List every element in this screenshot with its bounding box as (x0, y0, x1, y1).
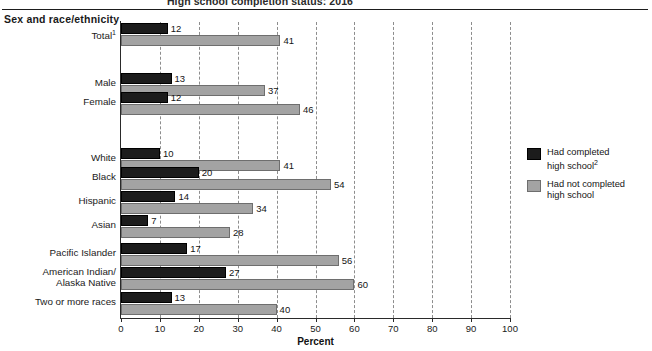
x-tick-label: 10 (155, 323, 166, 334)
chart-title: High school completion status: 2016 (0, 0, 520, 7)
category-label-line: Male (95, 78, 116, 89)
category-label: Pacific Islander (50, 248, 116, 259)
category-label-line: Hispanic (78, 196, 116, 207)
x-tick (121, 318, 122, 322)
category-label: Male (95, 78, 116, 89)
bar-completed (121, 167, 199, 178)
bar-value-label: 14 (178, 191, 189, 202)
x-tick-label: 60 (349, 323, 360, 334)
bar-completed (121, 292, 172, 303)
bar-value-label: 28 (233, 227, 244, 238)
legend-label: Had not completedhigh school (547, 179, 625, 200)
bar-value-label: 17 (190, 243, 201, 254)
bar-value-label: 40 (280, 304, 291, 315)
bar-value-label: 37 (268, 85, 279, 96)
bar-notcompleted (121, 35, 280, 46)
bar-completed (121, 191, 175, 202)
bar-completed (121, 92, 168, 103)
title-divider (2, 9, 648, 10)
category-label-line: Female (83, 97, 116, 108)
legend-swatch-notcompleted (527, 180, 541, 192)
group-heading: Sex and race/ethnicity (4, 13, 119, 25)
bar-value-label: 41 (283, 35, 294, 46)
bar-value-label: 20 (202, 167, 213, 178)
bar-value-label: 27 (229, 267, 240, 278)
category-label: Black (92, 172, 116, 183)
x-tick-label: 0 (118, 323, 123, 334)
footnote-marker: 1 (112, 29, 116, 36)
bar-value-label: 46 (303, 104, 314, 115)
x-tick (199, 318, 200, 322)
category-label-line: White (91, 153, 116, 164)
x-tick (277, 318, 278, 322)
bar-notcompleted (121, 304, 277, 315)
x-tick-label: 80 (427, 323, 438, 334)
x-tick (510, 318, 511, 322)
category-label: Asian (91, 220, 116, 231)
legend-label-line: Had not completed (547, 179, 625, 190)
x-axis-label: Percent (121, 336, 510, 347)
x-tick (316, 318, 317, 322)
legend-item-completed: Had completedhigh school2 (527, 147, 649, 171)
category-label: Female (83, 97, 116, 108)
legend-item-notcompleted: Had not completedhigh school (527, 179, 649, 200)
bar-value-label: 7 (151, 215, 156, 226)
x-tick-label: 30 (232, 323, 243, 334)
bar-notcompleted (121, 227, 230, 238)
footnote-marker: 2 (594, 159, 598, 166)
gridline (471, 22, 472, 318)
category-label: Hispanic (78, 196, 116, 207)
bar-value-label: 13 (175, 292, 186, 303)
category-label: White (91, 153, 116, 164)
gridline (510, 22, 511, 318)
bar-value-label: 34 (256, 203, 267, 214)
category-label-line: Black (92, 172, 116, 183)
bar-completed (121, 23, 168, 34)
category-label-line: Asian (91, 220, 116, 231)
x-tick-label: 100 (502, 323, 518, 334)
gridline (393, 22, 394, 318)
plot-area: 124113371246104120541434728175627601340 (121, 22, 510, 318)
x-tick-label: 20 (194, 323, 205, 334)
legend-label-line: high school2 (547, 158, 610, 172)
x-tick (354, 318, 355, 322)
bar-value-label: 56 (342, 255, 353, 266)
bar-value-label: 12 (171, 92, 182, 103)
x-tick (160, 318, 161, 322)
gridline (354, 22, 355, 318)
category-label-line: Two or more races (35, 297, 116, 308)
bar-completed (121, 73, 172, 84)
category-label: Two or more races (35, 297, 116, 308)
bar-notcompleted (121, 203, 253, 214)
legend-label: Had completedhigh school2 (547, 147, 610, 171)
bar-value-label: 12 (171, 23, 182, 34)
bar-notcompleted (121, 179, 331, 190)
x-tick (471, 318, 472, 322)
x-tick-label: 90 (466, 323, 477, 334)
bar-value-label: 54 (334, 179, 345, 190)
bar-value-label: 13 (175, 73, 186, 84)
bar-completed (121, 148, 160, 159)
category-label-line: Alaska Native (42, 278, 116, 289)
x-tick-label: 50 (310, 323, 321, 334)
legend-swatch-completed (527, 148, 541, 160)
x-tick-label: 70 (388, 323, 399, 334)
bar-value-label: 60 (357, 279, 368, 290)
x-tick (432, 318, 433, 322)
category-label: Total1 (91, 28, 116, 42)
gridline (432, 22, 433, 318)
bar-value-label: 41 (283, 160, 294, 171)
x-tick (393, 318, 394, 322)
legend-label-line: high school (547, 190, 625, 201)
category-label: American Indian/Alaska Native (42, 267, 116, 288)
bar-completed (121, 215, 148, 226)
bar-notcompleted (121, 255, 339, 266)
x-tick-label: 40 (271, 323, 282, 334)
legend-label-line: Had completed (547, 147, 610, 158)
bar-notcompleted (121, 104, 300, 115)
category-label-line: American Indian/ (42, 267, 116, 278)
gridline (316, 22, 317, 318)
x-tick (238, 318, 239, 322)
category-label-line: Pacific Islander (50, 248, 116, 259)
bar-completed (121, 267, 226, 278)
